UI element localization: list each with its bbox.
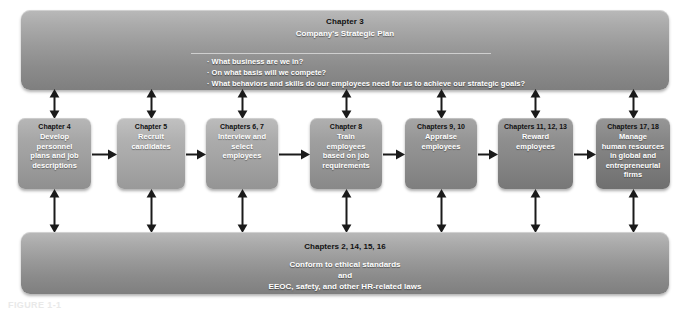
process-box-6-chapter: Chapters 11, 12, 13 xyxy=(498,118,573,131)
bottom-vertical-arrow-5 xyxy=(436,189,447,233)
figure-caption: FIGURE 1-1 xyxy=(8,300,62,310)
process-box-1-chapter: Chapter 4 xyxy=(18,118,91,131)
compliance-bar: Chapters 2, 14, 15, 16 Conform to ethica… xyxy=(21,232,669,294)
strategic-question-3: What behaviors and skills do our employe… xyxy=(207,78,649,89)
flow-arrow-4 xyxy=(382,149,405,160)
process-box-3[interactable]: Chapters 6, 7Interview andselectemployee… xyxy=(206,118,278,189)
process-box-5-body: Appraiseemployees xyxy=(405,132,477,151)
process-box-1[interactable]: Chapter 4Developpersonnelplans and jobde… xyxy=(18,118,91,189)
top-vertical-arrow-2 xyxy=(146,89,157,119)
process-box-6-body: Rewardemployees xyxy=(498,132,573,151)
flow-arrow-5 xyxy=(477,149,498,160)
flow-arrow-2 xyxy=(185,149,206,160)
top-vertical-arrow-1 xyxy=(49,89,60,119)
process-box-2[interactable]: Chapter 5Recruitcandidates xyxy=(117,118,185,189)
process-box-3-body: Interview andselectemployees xyxy=(206,132,278,161)
process-box-7-body: Managehuman resourcesin global andentrep… xyxy=(596,132,670,180)
top-vertical-arrow-4 xyxy=(341,89,352,119)
flow-arrow-1 xyxy=(91,149,117,160)
bottom-bar-chapter-label: Chapters 2, 14, 15, 16 xyxy=(21,232,669,251)
process-box-3-chapter: Chapters 6, 7 xyxy=(206,118,278,131)
top-bar-divider xyxy=(191,53,491,54)
process-box-7-chapter: Chapters 17, 18 xyxy=(596,118,670,131)
process-box-6[interactable]: Chapters 11, 12, 13Rewardemployees xyxy=(498,118,573,189)
bottom-vertical-arrow-1 xyxy=(49,189,60,233)
top-bar-title: Company's Strategic Plan xyxy=(21,29,669,39)
bottom-vertical-arrow-7 xyxy=(628,189,639,233)
bottom-vertical-arrow-4 xyxy=(341,189,352,233)
figure-canvas: Chapter 3 Company's Strategic Plan What … xyxy=(0,0,689,311)
top-vertical-arrow-5 xyxy=(436,89,447,119)
compliance-lines: Conform to ethical standards and EEOC, s… xyxy=(21,259,669,292)
compliance-line-3: EEOC, safety, and other HR-related laws xyxy=(21,281,669,292)
bottom-vertical-arrow-2 xyxy=(146,189,157,233)
strategic-plan-bar: Chapter 3 Company's Strategic Plan What … xyxy=(21,10,669,90)
top-vertical-arrow-6 xyxy=(530,89,541,119)
top-bar-chapter-label: Chapter 3 xyxy=(21,10,669,26)
process-box-1-body: Developpersonnelplans and jobdescription… xyxy=(18,132,91,170)
process-box-4-body: Trainemployeesbased on jobrequirements xyxy=(310,132,382,170)
bottom-vertical-arrow-6 xyxy=(530,189,541,233)
process-box-7[interactable]: Chapters 17, 18Managehuman resourcesin g… xyxy=(596,118,670,189)
compliance-line-2: and xyxy=(21,270,669,281)
process-box-4-chapter: Chapter 8 xyxy=(310,118,382,131)
top-vertical-arrow-7 xyxy=(628,89,639,119)
top-vertical-arrow-3 xyxy=(237,89,248,119)
process-box-5-chapter: Chapters 9, 10 xyxy=(405,118,477,131)
flow-arrow-3 xyxy=(278,149,310,160)
strategic-questions-list: What business are we in? On what basis w… xyxy=(207,56,649,89)
strategic-question-2: On what basis will we compete? xyxy=(207,67,649,78)
flow-arrow-6 xyxy=(573,149,596,160)
process-box-5[interactable]: Chapters 9, 10Appraiseemployees xyxy=(405,118,477,189)
strategic-question-1: What business are we in? xyxy=(207,56,649,67)
process-box-2-body: Recruitcandidates xyxy=(117,132,185,151)
compliance-line-1: Conform to ethical standards xyxy=(21,259,669,270)
process-box-2-chapter: Chapter 5 xyxy=(117,118,185,131)
bottom-vertical-arrow-3 xyxy=(237,189,248,233)
process-box-4[interactable]: Chapter 8Trainemployeesbased on jobrequi… xyxy=(310,118,382,189)
